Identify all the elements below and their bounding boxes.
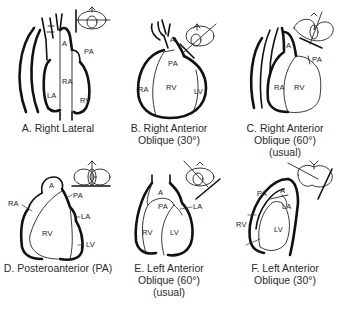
label-pulmonary-artery: PA — [158, 203, 168, 211]
label-right-ventricle: RV — [236, 221, 247, 229]
caption-panel-a: A. Right Lateral — [18, 122, 98, 134]
label-left-ventricle: LV — [274, 226, 283, 234]
caption-panel-f: F. Left Anterior Oblique (30°) — [240, 262, 330, 286]
panel-lao-30: PA A LA RV LV — [222, 155, 338, 265]
orientation-right-lateral-icon — [76, 7, 110, 32]
label-pulmonary-artery: PA — [84, 48, 94, 56]
label-right-ventricle: RV — [142, 229, 153, 237]
orientation-lao30-icon — [288, 161, 332, 199]
orientation-pa-icon — [72, 161, 110, 186]
label-aorta: A — [280, 187, 285, 195]
label-right-atrium: RA — [138, 86, 149, 94]
label-left-ventricle: LV — [170, 229, 179, 237]
orientation-rao60-icon — [294, 12, 333, 48]
label-right-ventricle: RV — [294, 84, 305, 92]
label-right-atrium: RA — [62, 78, 73, 86]
label-left-ventricle: LV — [86, 241, 95, 249]
caption-panel-b: B. Right Anterior Oblique (30°) — [126, 122, 212, 146]
label-right-ventricle: RV — [80, 97, 91, 105]
panel-posteroanterior: A RA PA LA RV LV — [0, 155, 112, 265]
label-left-ventricle: LV — [194, 88, 203, 96]
label-left-atrium: LA — [193, 203, 203, 211]
caption-panel-c: C. Right Anterior Oblique (60°) (usual) — [238, 122, 332, 158]
caption-panel-e: E. Left Anterior Oblique (60°) (usual) — [128, 262, 210, 298]
label-aorta: A — [170, 36, 175, 44]
label-pulmonary-artery: PA — [257, 190, 267, 198]
heart-outline-lao-30 — [222, 155, 338, 265]
orientation-lao60-icon — [184, 161, 220, 199]
label-left-atrium: LA — [47, 92, 57, 100]
label-aorta: A — [158, 189, 163, 197]
label-pulmonary-artery: PA — [312, 56, 322, 64]
label-left-atrium: LA — [282, 203, 292, 211]
label-right-atrium: RA — [8, 200, 19, 208]
label-right-ventricle: RV — [42, 230, 53, 238]
panel-lao-60: A PA LA RV LV — [112, 155, 224, 265]
label-pulmonary-artery: PA — [73, 192, 83, 200]
heart-outline-pa — [0, 155, 112, 265]
label-aorta: A — [62, 40, 67, 48]
label-aorta: A — [49, 182, 54, 190]
label-left-atrium: LA — [81, 213, 91, 221]
label-right-atrium: RA — [274, 84, 285, 92]
heart-outline-lao-60 — [112, 155, 224, 265]
caption-panel-d: D. Posteroanterior (PA) — [0, 262, 116, 274]
label-pulmonary-artery: PA — [168, 60, 178, 68]
label-right-ventricle: RV — [166, 84, 177, 92]
label-aorta: A — [286, 42, 291, 50]
orientation-rao30-icon — [180, 24, 216, 58]
